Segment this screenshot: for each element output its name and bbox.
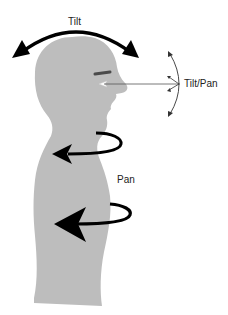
diagram-canvas: Tilt Tilt/Pan Pan [0, 0, 228, 315]
tilt-pan-tick-up [169, 77, 179, 84]
tilt-label: Tilt [68, 17, 81, 27]
humanoid-figure [0, 0, 228, 315]
eyebrow-icon [95, 72, 110, 74]
body-silhouette [34, 36, 128, 306]
tilt-pan-arc-arrowhead-bottom [168, 111, 173, 117]
tilt-pan-label: Tilt/Pan [184, 79, 218, 89]
tilt-pan-tick-down-head [167, 88, 171, 92]
tilt-pan-tick-down [169, 84, 179, 90]
tilt-pan-arc-arrowhead-top [168, 51, 173, 57]
pan-label: Pan [117, 175, 135, 185]
